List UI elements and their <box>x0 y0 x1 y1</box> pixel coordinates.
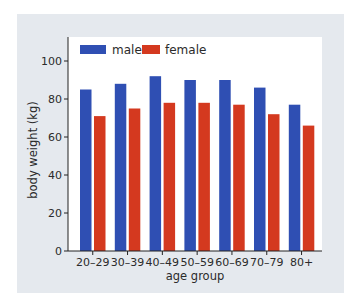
bar-female-2 <box>164 103 176 251</box>
legend-label-female: female <box>165 43 206 57</box>
x-tick-label: 60–69 <box>215 256 249 269</box>
y-axis-title: body weight (kg) <box>26 101 40 198</box>
bar-male-5 <box>254 88 266 251</box>
bars-group <box>80 76 314 251</box>
y-tick-label: 60 <box>48 131 62 144</box>
legend: male female <box>80 43 206 57</box>
y-tick-label: 80 <box>48 93 62 106</box>
x-axis-title: age group <box>166 269 224 283</box>
bar-female-1 <box>129 109 141 252</box>
legend-label-male: male <box>112 43 142 57</box>
y-ticks: 020406080100 <box>41 55 68 258</box>
legend-swatch-female <box>142 45 160 54</box>
y-tick-label: 0 <box>55 245 62 258</box>
x-tick-label: 80+ <box>290 256 313 269</box>
bar-female-3 <box>198 103 210 251</box>
bar-male-6 <box>289 105 301 251</box>
x-tick-label: 40–49 <box>146 256 180 269</box>
bar-male-3 <box>184 80 196 251</box>
y-tick-label: 20 <box>48 207 62 220</box>
legend-swatch-male <box>80 45 106 54</box>
bar-male-0 <box>80 90 92 252</box>
y-tick-label: 40 <box>48 169 62 182</box>
bar-female-6 <box>303 126 315 251</box>
x-tick-label: 20–29 <box>76 256 110 269</box>
bar-male-2 <box>150 76 162 251</box>
x-ticks: 20–2930–3940–4950–5960–6970–7980+ <box>76 251 313 269</box>
bar-female-4 <box>233 105 245 251</box>
x-tick-label: 30–39 <box>111 256 145 269</box>
x-tick-label: 70–79 <box>250 256 284 269</box>
bar-female-0 <box>94 116 106 251</box>
bar-male-4 <box>219 80 231 251</box>
bar-male-1 <box>115 84 127 251</box>
y-tick-label: 100 <box>41 55 62 68</box>
x-tick-label: 50–59 <box>180 256 214 269</box>
bar-chart: 020406080100 20–2930–3940–4950–5960–6970… <box>0 0 359 308</box>
bar-female-5 <box>268 114 280 251</box>
